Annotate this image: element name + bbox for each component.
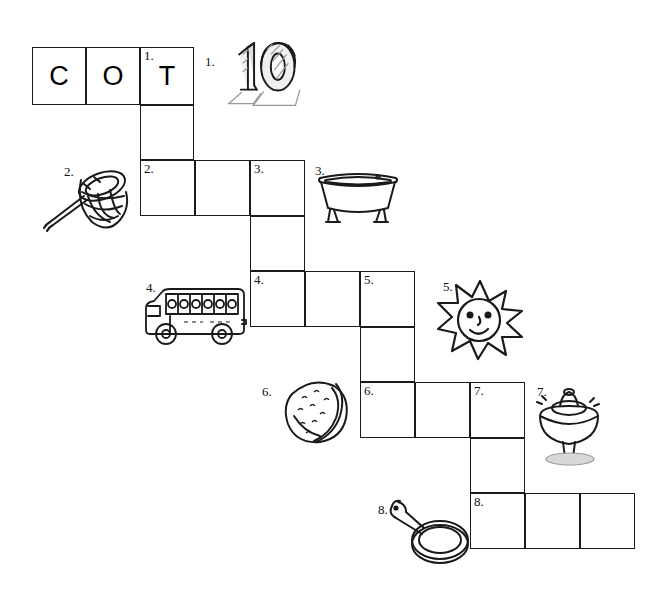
grid-cell[interactable] [140, 105, 194, 160]
cell-number: 8. [474, 494, 484, 509]
grid-cell[interactable] [360, 327, 415, 382]
grid-cell[interactable] [250, 216, 305, 271]
crossword-worksheet: CO1.T2.3.4.5.6.7.8. 1. 2 [0, 0, 668, 609]
grid-cell[interactable]: 2. [140, 160, 195, 216]
grid-cell[interactable] [415, 382, 470, 438]
cell-letter: C [33, 63, 85, 90]
grid-cell[interactable] [470, 438, 525, 493]
grid-cell[interactable]: 6. [360, 382, 415, 438]
bathtub-icon [312, 160, 404, 228]
net-icon [40, 158, 140, 234]
grid-cell[interactable]: O [86, 47, 140, 105]
clue-number: 1. [205, 55, 215, 69]
cell-number: 4. [254, 272, 264, 287]
grid-cell[interactable]: 5. [360, 271, 415, 327]
grid-cell[interactable] [580, 493, 635, 549]
grid-cell[interactable] [195, 160, 250, 216]
grid-cell[interactable]: 1.T [140, 47, 194, 105]
grid-cell[interactable]: 8. [470, 493, 525, 549]
cell-number: 5. [364, 272, 374, 287]
nut-icon [276, 374, 356, 446]
sun-icon [432, 275, 528, 361]
cell-number: 2. [144, 161, 154, 176]
cell-number: 6. [364, 383, 374, 398]
frying-pan-icon [384, 496, 472, 568]
cell-number: 7. [474, 383, 484, 398]
grid-cell[interactable]: 3. [250, 160, 305, 216]
number-ten-icon [218, 28, 306, 116]
cell-letter: O [87, 63, 139, 90]
grid-cell[interactable]: 4. [250, 271, 305, 327]
cell-letter: T [141, 63, 193, 90]
grid-cell[interactable] [525, 493, 580, 549]
grid-cell[interactable]: C [32, 47, 86, 105]
cell-number: 3. [254, 161, 264, 176]
school-bus-icon [140, 280, 250, 350]
grid-cell[interactable]: 7. [470, 382, 525, 438]
spinning-top-icon [530, 382, 608, 466]
cell-number: 1. [144, 48, 154, 63]
clue-number: 6. [262, 385, 272, 399]
grid-cell[interactable] [305, 271, 360, 327]
